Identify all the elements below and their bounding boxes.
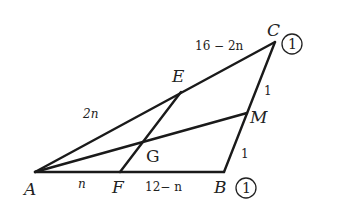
triangle-diagram: A F B C M E G 2n 16 − 2n n 12− n 1 1 1 1 xyxy=(0,0,340,213)
mass-label-C: 1 xyxy=(288,36,297,52)
length-label-MB: 1 xyxy=(241,147,249,161)
point-label-C: C xyxy=(267,20,280,40)
length-label-EC: 16 − 2n xyxy=(195,39,244,53)
mass-label-B: 1 xyxy=(242,180,251,196)
length-label-CM: 1 xyxy=(264,84,272,98)
length-label-AE: 2n xyxy=(82,107,98,121)
point-label-B: B xyxy=(213,177,227,197)
point-label-F: F xyxy=(111,177,125,197)
length-label-AF: n xyxy=(78,177,86,191)
point-label-E: E xyxy=(171,66,185,86)
point-label-M: M xyxy=(249,107,268,127)
point-label-A: A xyxy=(22,179,36,199)
length-label-FB: 12− n xyxy=(145,180,182,194)
point-label-G: G xyxy=(146,146,160,166)
